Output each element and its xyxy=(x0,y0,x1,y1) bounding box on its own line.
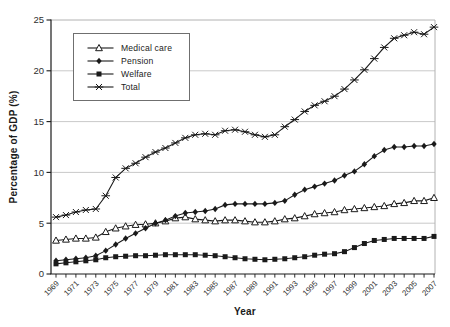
legend-marker-welfare-icon xyxy=(87,69,114,79)
x-tick-label: 2007 xyxy=(420,279,439,298)
x-tick-label: 1977 xyxy=(122,279,141,298)
y-axis-title: Percentage of GDP (%) xyxy=(8,91,19,204)
legend-item-welfare: Welfare xyxy=(87,69,185,79)
x-tick-label: 1993 xyxy=(281,279,300,298)
chart-svg: 0510152025196919711973197519771979198119… xyxy=(0,0,450,327)
legend-marker-total-icon xyxy=(87,82,114,92)
x-tick-label: 1975 xyxy=(102,279,121,298)
legend-marker-pension-icon xyxy=(87,56,114,66)
x-tick-label: 1995 xyxy=(301,279,320,298)
x-tick-label: 1981 xyxy=(162,279,181,298)
y-tick-label: 20 xyxy=(33,65,44,76)
x-tick-label: 1979 xyxy=(142,279,161,298)
x-tick-label: 1969 xyxy=(42,279,61,298)
chart-container: 0510152025196919711973197519771979198119… xyxy=(0,0,450,327)
series-pension xyxy=(53,141,436,264)
series-welfare xyxy=(54,234,437,266)
x-tick-label: 2003 xyxy=(380,279,399,298)
y-axis-ticks: 0510152025 xyxy=(33,14,51,279)
x-axis-ticks: 1969197119731975197719791981198319851987… xyxy=(42,274,439,298)
x-tick-label: 1999 xyxy=(341,279,360,298)
x-tick-label: 1987 xyxy=(221,279,240,298)
legend: Medical carePensionWelfareTotal xyxy=(73,33,190,101)
x-tick-label: 2001 xyxy=(361,279,380,298)
y-tick-label: 15 xyxy=(33,116,44,127)
x-axis-title: Year xyxy=(234,306,256,317)
y-tick-label: 25 xyxy=(33,14,44,25)
x-tick-label: 1991 xyxy=(261,279,280,298)
x-tick-label: 1971 xyxy=(62,279,81,298)
x-tick-label: 1985 xyxy=(201,279,220,298)
x-tick-label: 1973 xyxy=(82,279,101,298)
x-tick-label: 2005 xyxy=(400,279,419,298)
legend-label: Welfare xyxy=(121,69,152,79)
legend-item-pension: Pension xyxy=(87,56,185,66)
legend-marker-medical-care-icon xyxy=(87,43,114,53)
x-tick-label: 1997 xyxy=(321,279,340,298)
x-tick-label: 1983 xyxy=(182,279,201,298)
y-tick-label: 0 xyxy=(39,268,44,279)
y-tick-label: 5 xyxy=(39,218,44,229)
legend-item-medical-care: Medical care xyxy=(87,43,185,53)
legend-label: Medical care xyxy=(121,43,172,53)
y-tick-label: 10 xyxy=(33,167,44,178)
legend-item-total: Total xyxy=(87,82,185,92)
legend-label: Pension xyxy=(121,56,153,66)
x-tick-label: 1989 xyxy=(241,279,260,298)
legend-label: Total xyxy=(121,82,140,92)
